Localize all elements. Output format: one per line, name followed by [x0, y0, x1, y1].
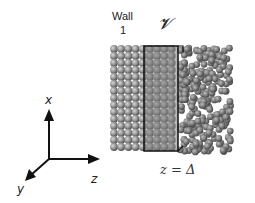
- x-axis-label: x: [45, 93, 52, 107]
- disordered-fluid: [177, 45, 234, 156]
- z-arrowhead-icon: [88, 154, 100, 164]
- particle-simulation-figure: [0, 0, 255, 203]
- control-volume-box: [144, 46, 183, 151]
- y-axis-label: y: [17, 182, 24, 196]
- x-arrowhead-icon: [44, 109, 54, 121]
- z-axis-label: z: [91, 172, 97, 186]
- diagram-canvas: Wall 1 𝓥 z = Δ: [0, 0, 255, 203]
- axes-triad: [25, 109, 100, 181]
- y-axis-arrow: [31, 159, 49, 175]
